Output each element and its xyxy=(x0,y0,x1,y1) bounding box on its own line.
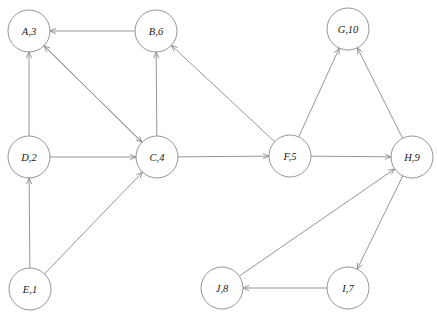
node-label: B,6 xyxy=(149,26,164,37)
graph-edge-b-to-a xyxy=(50,29,135,34)
edge-line xyxy=(45,172,143,274)
graph-node-a[interactable]: A,3 xyxy=(8,10,50,52)
edge-line xyxy=(299,48,340,137)
graph-node-i[interactable]: I,7 xyxy=(327,267,369,309)
graph-node-b[interactable]: B,6 xyxy=(135,10,177,52)
graph-edge-j-to-h xyxy=(239,169,394,276)
graph-node-e[interactable]: E,1 xyxy=(9,268,51,310)
graph-edge-c-to-f xyxy=(178,154,269,159)
edge-line xyxy=(156,52,157,136)
graph-node-f[interactable]: F,5 xyxy=(269,135,311,177)
graph-edge-h-to-g xyxy=(357,48,402,138)
graph-edge-a-to-c xyxy=(44,46,142,143)
edge-line xyxy=(29,178,30,268)
graph-edge-d-to-a xyxy=(27,52,32,136)
graph-edge-d-to-c xyxy=(50,155,136,160)
graph-edge-f-to-g xyxy=(299,48,340,137)
node-label: G,10 xyxy=(338,24,359,35)
node-label: A,3 xyxy=(21,26,36,37)
node-label: H,9 xyxy=(403,152,420,163)
node-label: F,5 xyxy=(283,151,297,162)
graph-svg: A,3B,6G,10D,2C,4F,5H,9E,1J,8I,7 xyxy=(0,0,437,312)
edge-line xyxy=(44,46,142,143)
node-label: I,7 xyxy=(341,283,354,294)
graph-node-g[interactable]: G,10 xyxy=(327,8,369,50)
node-label: J,8 xyxy=(216,283,229,294)
graph-edge-c-to-b xyxy=(154,52,159,136)
edge-line xyxy=(239,169,394,276)
graph-edge-f-to-h xyxy=(311,154,391,159)
edge-line xyxy=(178,156,269,157)
graph-diagram-canvas: A,3B,6G,10D,2C,4F,5H,9E,1J,8I,7 xyxy=(0,0,437,312)
graph-node-j[interactable]: J,8 xyxy=(201,267,243,309)
edge-line xyxy=(311,156,391,157)
graph-edge-e-to-d xyxy=(27,178,32,268)
node-label: C,4 xyxy=(150,152,166,163)
graph-node-h[interactable]: H,9 xyxy=(391,136,433,178)
node-label: D,2 xyxy=(20,152,37,163)
graph-edge-i-to-j xyxy=(243,286,327,291)
graph-edge-f-to-b xyxy=(171,45,274,141)
graph-edge-e-to-c xyxy=(45,172,143,274)
edges-layer xyxy=(27,29,403,291)
edge-line xyxy=(357,48,402,138)
graph-node-c[interactable]: C,4 xyxy=(136,136,178,178)
edge-line xyxy=(171,45,274,141)
graph-node-d[interactable]: D,2 xyxy=(8,136,50,178)
nodes-layer: A,3B,6G,10D,2C,4F,5H,9E,1J,8I,7 xyxy=(8,8,433,310)
node-label: E,1 xyxy=(22,284,37,295)
